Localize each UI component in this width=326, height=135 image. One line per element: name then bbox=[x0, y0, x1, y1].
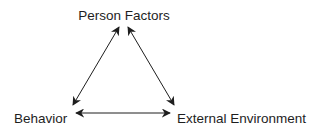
reciprocal-determinism-diagram: Person Factors Behavior External Environ… bbox=[0, 0, 326, 135]
node-behavior: Behavior bbox=[14, 111, 68, 126]
edge-person-environment-arrow bbox=[128, 27, 174, 105]
node-external-environment: External Environment bbox=[177, 111, 306, 126]
node-person-factors: Person Factors bbox=[78, 8, 170, 23]
edge-person-behavior-arrow bbox=[73, 27, 119, 105]
